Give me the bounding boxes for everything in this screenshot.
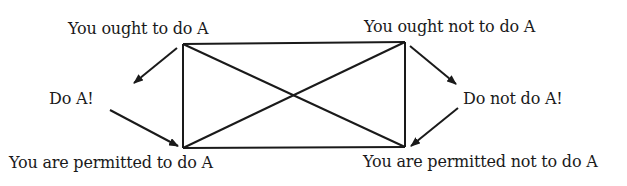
arrow-tl-to-middle-left: [134, 48, 177, 83]
label-bottom-right: You are permitted not to do A: [363, 154, 598, 170]
deontic-square-diagram: You ought to do A You ought not to do A …: [0, 0, 627, 186]
label-middle-right: Do not do A!: [463, 91, 563, 107]
label-bottom-left: You are permitted to do A: [9, 155, 213, 171]
edge-bottom: [183, 147, 405, 148]
arrow-tr-to-middle-right: [410, 46, 456, 84]
arrow-middle-left-to-bl: [110, 110, 178, 146]
edge-top: [183, 42, 405, 44]
label-middle-left: Do A!: [49, 91, 94, 107]
label-top-left: You ought to do A: [68, 21, 208, 37]
label-top-right: You ought not to do A: [364, 19, 535, 35]
arrow-middle-right-to-br: [411, 108, 458, 146]
